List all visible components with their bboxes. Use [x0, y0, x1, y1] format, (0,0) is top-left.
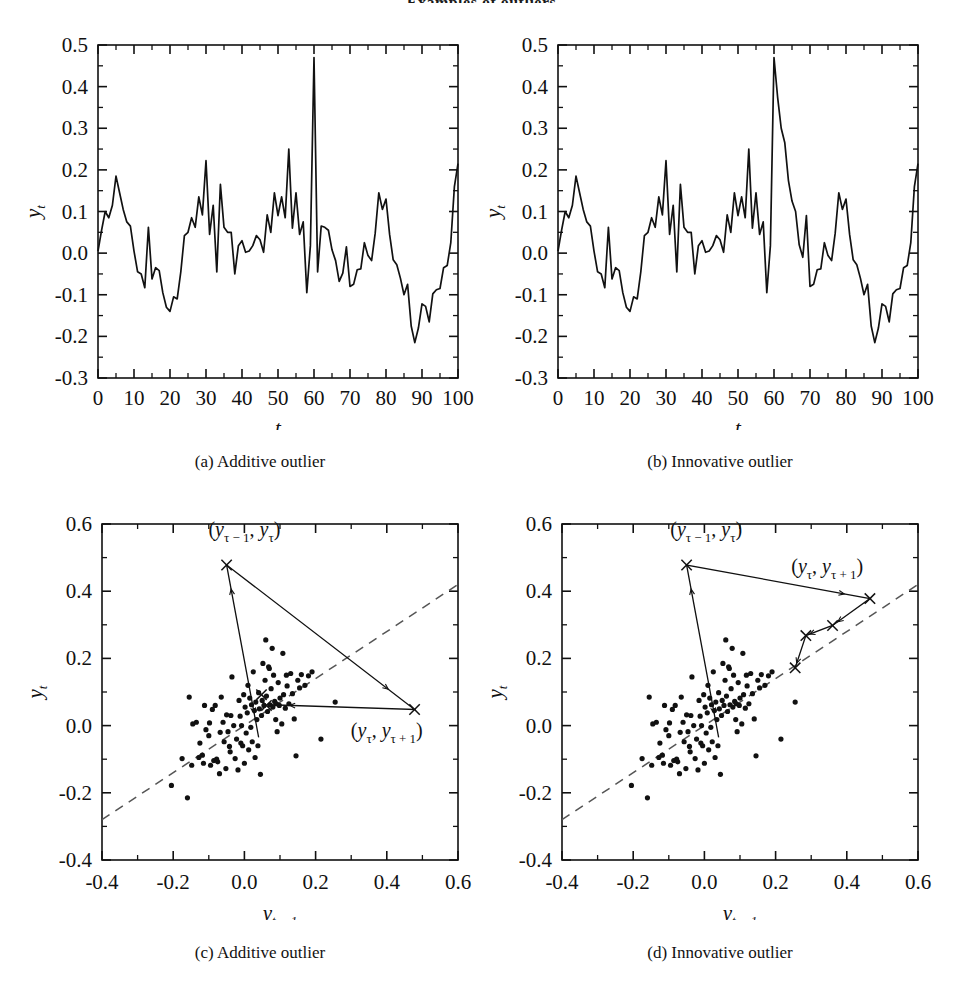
scatter-point: [255, 743, 260, 748]
scatter-point: [227, 744, 232, 749]
y-tick-label: -0.2: [59, 781, 92, 805]
scatter-point: [741, 692, 746, 697]
y-tick-label: -0.3: [515, 366, 548, 390]
scatter-point: [736, 680, 741, 685]
y-axis-label-sub: t: [495, 685, 510, 689]
scatter-point: [678, 730, 683, 735]
y-tick-label: 0.5: [62, 33, 88, 57]
panel-d-svg: -0.4-0.20.00.20.40.6-0.4-0.20.00.20.40.6…: [478, 508, 938, 920]
scatter-point: [722, 678, 727, 683]
scatter-point: [717, 706, 722, 711]
scatter-point: [260, 661, 265, 666]
scatter-point: [698, 714, 703, 719]
panel-b-innovative-outlier-timeseries: -0.3-0.2-0.10.00.10.20.30.40.50102030405…: [478, 30, 938, 430]
scatter-point: [740, 651, 745, 656]
y-tick-label: 0.2: [526, 646, 552, 670]
scatter-point: [218, 730, 223, 735]
plot-area-a: -0.3-0.2-0.10.00.10.20.30.40.50102030405…: [21, 33, 474, 430]
scatter-point: [735, 729, 740, 734]
scatter-point: [704, 730, 709, 735]
y-tick-label: 0.5: [522, 33, 548, 57]
scatter-point: [647, 694, 652, 699]
scatter-point: [250, 739, 255, 744]
x-tick-label: 20: [620, 386, 641, 410]
scatter-point: [196, 755, 201, 760]
plot-area-d: -0.4-0.20.00.20.40.6-0.4-0.20.00.20.40.6…: [483, 512, 931, 920]
annot-part: ): [857, 555, 864, 578]
scatter-point: [253, 699, 258, 704]
scatter-point: [753, 753, 758, 758]
scatter-point: [201, 761, 206, 766]
scatter-point: [750, 691, 755, 696]
scatter-point: [718, 772, 723, 777]
y-tick-label: -0.4: [519, 848, 553, 872]
scatter-point: [240, 743, 245, 748]
x-tick-label: 10: [584, 386, 605, 410]
label-next-pair: (yτ, yτ + 1): [351, 719, 423, 746]
scatter-point: [299, 672, 304, 677]
scatter-point: [231, 723, 236, 728]
y-tick-label: 0.1: [62, 200, 88, 224]
scatter-point: [688, 713, 693, 718]
scatter-point: [683, 766, 688, 771]
scatter-point: [662, 703, 667, 708]
scatter-point: [746, 701, 751, 706]
caption-panel-c: (c) Additive outlier: [60, 943, 460, 963]
scatter-point: [280, 651, 285, 656]
y-tick-label: 0.2: [522, 158, 548, 182]
x-tick-label: 0.6: [445, 870, 471, 894]
scatter-point: [752, 716, 757, 721]
scatter-point: [724, 693, 729, 698]
scatter-point: [720, 661, 725, 666]
x-tick-label: 70: [340, 386, 361, 410]
y-axis-label: yt: [23, 685, 50, 700]
scatter-point: [675, 759, 680, 764]
y-axis-label: yt: [21, 205, 48, 220]
x-tick-label: 20: [160, 386, 181, 410]
annot-part: ): [735, 518, 742, 541]
scatter-point: [743, 706, 748, 711]
y-tick-label: 0.6: [66, 512, 92, 536]
x-tick-label: 10: [124, 386, 145, 410]
annot-part: τ − 1: [686, 530, 712, 545]
scatter-point: [694, 736, 699, 741]
scatter-point: [702, 761, 707, 766]
panel-d-innovative-outlier-scatter: -0.4-0.20.00.20.40.6-0.4-0.20.00.20.40.6…: [478, 508, 938, 920]
scatter-point: [755, 678, 760, 683]
scatter-point: [223, 766, 228, 771]
x-tick-label: -0.4: [545, 870, 579, 894]
annot-part: y: [258, 518, 269, 541]
scatter-point: [234, 736, 239, 741]
label-prev-pair: (yτ − 1, yτ): [208, 518, 280, 545]
annot-part: y: [719, 518, 730, 541]
scatter-point: [229, 674, 234, 679]
scatter-point: [713, 699, 718, 704]
scatter-point: [297, 685, 302, 690]
scatter-point: [292, 716, 297, 721]
series-line: [558, 57, 918, 342]
scatter-point: [712, 755, 717, 760]
scatter-point: [727, 666, 732, 671]
y-axis-label-base: y: [21, 208, 45, 220]
scatter-point: [640, 756, 645, 761]
scatter-point: [275, 729, 280, 734]
scatter-point: [667, 720, 672, 725]
scatter-point: [271, 673, 276, 678]
x-tick-label: 50: [728, 386, 749, 410]
y-tick-label: 0.0: [526, 714, 552, 738]
scatter-point: [248, 725, 253, 730]
x-tick-label: 90: [412, 386, 433, 410]
annot-part: y: [380, 719, 391, 742]
scatter-point: [189, 763, 194, 768]
scatter-point: [306, 673, 311, 678]
annot-part: ,: [372, 719, 382, 741]
y-tick-label: 0.4: [62, 75, 89, 99]
y-tick-label: 0.2: [66, 646, 92, 670]
x-tick-label: 100: [902, 386, 934, 410]
x-tick-label: 40: [692, 386, 713, 410]
scatter-point: [270, 646, 275, 651]
scatter-point: [710, 739, 715, 744]
scatter-point: [645, 795, 650, 800]
scatter-point: [185, 795, 190, 800]
annot-part: y: [356, 719, 367, 742]
